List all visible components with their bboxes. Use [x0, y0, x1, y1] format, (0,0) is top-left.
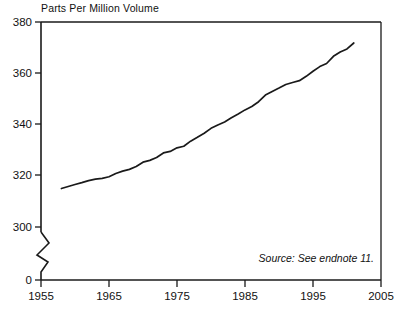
- x-tick-label-1955: 1955: [28, 290, 54, 302]
- y-tick-label-360: 360: [13, 67, 32, 79]
- source-annotation: Source: See endnote 11.: [259, 252, 374, 264]
- y-tick-label-0: 0: [26, 274, 32, 286]
- x-tick-label-2005: 2005: [368, 290, 394, 302]
- y-tick-label-300: 300: [13, 221, 32, 233]
- y-tick-label-340: 340: [13, 118, 32, 130]
- chart-page: Parts Per Million Volume 380 360 340 320…: [0, 0, 408, 319]
- y-axis-break-zigzag: [37, 232, 49, 280]
- y-tick-label-380: 380: [13, 16, 32, 28]
- x-tick-label-1975: 1975: [164, 290, 190, 302]
- y-tick-label-320: 320: [13, 169, 32, 181]
- x-tick-label-1965: 1965: [96, 290, 122, 302]
- data-series-line: [61, 43, 353, 189]
- x-tick-label-1995: 1995: [300, 290, 326, 302]
- x-tick-label-1985: 1985: [232, 290, 258, 302]
- line-chart-plot: 380 360 340 320 300 0 1955 1965 1975 198…: [0, 0, 408, 319]
